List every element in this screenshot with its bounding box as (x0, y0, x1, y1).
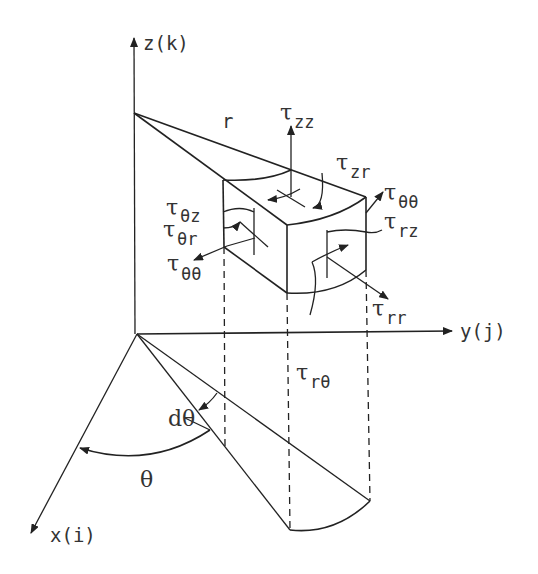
svg-text:τ: τ (280, 100, 292, 125)
right-edge-arrow (366, 192, 383, 213)
y-axis-label: y(j) (460, 320, 506, 342)
tau-zr-label: τ zr (336, 150, 370, 182)
svg-text:τ: τ (336, 150, 348, 175)
svg-text:τ: τ (163, 217, 175, 242)
tau-rz-label: τ rz (384, 209, 418, 241)
svg-text:θz: θz (180, 206, 200, 226)
svg-text:rθ: rθ (310, 372, 330, 392)
svg-text:τ: τ (372, 296, 384, 321)
dtheta-label: dθ (168, 406, 195, 431)
y-axis (137, 331, 452, 334)
svg-text:θr: θr (177, 229, 197, 249)
x-axis-label: x(i) (50, 524, 96, 546)
tau-thth-top-label: τ θθ (384, 180, 418, 212)
base-wedge (137, 334, 370, 531)
z-axis (134, 38, 135, 334)
svg-text:θθ: θθ (398, 192, 418, 212)
cylindrical-stress-element-diagram: z(k) y(j) x(i) r (0, 0, 538, 574)
svg-text:θθ: θθ (181, 264, 201, 284)
svg-text:zr: zr (350, 162, 370, 182)
svg-text:rr: rr (386, 308, 406, 328)
tau-thth-left-label: τ θθ (167, 251, 201, 284)
radius-label: r (222, 110, 233, 132)
svg-text:τ: τ (167, 251, 179, 276)
svg-text:τ: τ (296, 360, 308, 385)
projection-lines (224, 247, 370, 530)
tau-rtheta-label: τ rθ (296, 360, 330, 392)
svg-text:zz: zz (294, 112, 314, 132)
svg-text:τ: τ (384, 180, 396, 205)
z-axis-label: z(k) (143, 32, 189, 54)
svg-text:rz: rz (398, 221, 418, 241)
tau-rr-label: τ rr (372, 296, 406, 328)
dtheta-arc (199, 393, 217, 410)
tau-zz-label: τ zz (280, 100, 314, 132)
x-axis (31, 334, 137, 533)
theta-label: θ (140, 467, 153, 492)
svg-text:τ: τ (384, 209, 396, 234)
